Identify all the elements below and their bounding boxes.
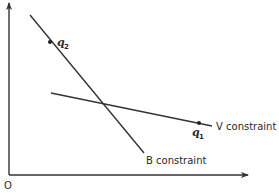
b-constraint-label: B constraint [146, 155, 206, 166]
origin-label: O [4, 180, 12, 191]
point-q1-label: q 1 [192, 126, 204, 141]
svg-text:1: 1 [199, 133, 204, 141]
point-q2-marker [48, 40, 52, 44]
point-q2-label: q 2 [57, 36, 69, 51]
point-q1-marker [197, 121, 201, 125]
v-constraint-line [51, 93, 212, 126]
b-constraint-line [30, 15, 144, 153]
constraint-diagram: O B constraint V constraint q 2 q 1 [0, 0, 279, 193]
v-constraint-label: V constraint [216, 121, 276, 132]
svg-text:2: 2 [64, 43, 69, 51]
